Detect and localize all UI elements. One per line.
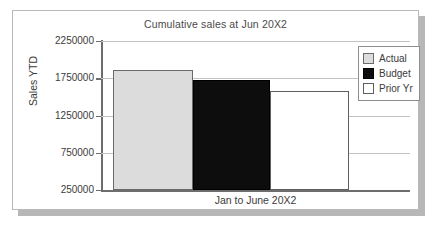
legend-item-actual: Actual — [363, 51, 414, 66]
legend-swatch-budget-icon — [363, 68, 374, 79]
tick-mark-1750000 — [96, 78, 101, 79]
legend-swatch-actual-icon — [363, 53, 374, 64]
legend-item-budget: Budget — [363, 66, 414, 81]
legend-label-prior-yr: Prior Yr — [379, 84, 413, 94]
y-axis-title: Sales YTD — [27, 56, 39, 106]
y-tick-label-2250000: 2250000 — [55, 36, 94, 46]
tick-mark-1250000 — [96, 116, 101, 117]
tick-mark-750000 — [96, 153, 101, 154]
legend-label-budget: Budget — [379, 69, 411, 79]
legend-label-actual: Actual — [379, 54, 407, 64]
y-tick-label-1250000: 1250000 — [55, 111, 94, 121]
bar-actual — [113, 70, 193, 190]
legend-item-prior-yr: Prior Yr — [363, 81, 414, 96]
legend-swatch-prior-yr-icon — [363, 83, 374, 94]
bar-prior-yr — [270, 91, 349, 190]
y-tick-label-750000: 750000 — [61, 148, 94, 158]
gridline-250000: 250000 — [101, 190, 410, 191]
y-tick-label-250000: 250000 — [61, 185, 94, 195]
x-axis-title: Jan to June 20X2 — [101, 194, 410, 206]
figure-drop-shadow-bottom — [18, 210, 425, 216]
bar-budget — [193, 80, 270, 190]
chart-title: Cumulative sales at Jun 20X2 — [13, 18, 418, 30]
y-tick-label-1750000: 1750000 — [55, 73, 94, 83]
chart-figure-frame: Cumulative sales at Jun 20X2 Sales YTD 2… — [12, 10, 419, 210]
tick-mark-2250000 — [96, 41, 101, 42]
tick-mark-250000 — [96, 190, 101, 191]
chart-legend: Actual Budget Prior Yr — [358, 46, 420, 101]
gridline-2250000: 2250000 — [101, 41, 410, 42]
